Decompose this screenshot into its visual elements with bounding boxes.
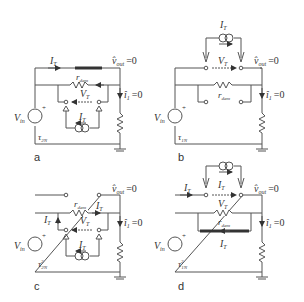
svg-text:rdam: rdam [74, 199, 87, 210]
svg-text:î1=0: î1=0 [124, 89, 142, 101]
svg-text:τ2N2: τ2N2 [38, 259, 48, 270]
svg-text:VT: VT [218, 55, 228, 67]
svg-text:IT: IT [95, 200, 103, 212]
panel-a: IT v̂out=0 rdam VT î1=0 IT Vin + τ2N a [14, 55, 142, 163]
svg-text:+: + [42, 104, 46, 112]
panel-label-c: c [34, 280, 40, 292]
svg-text:VT: VT [80, 88, 90, 100]
panel-c: v̂out=0 rdam IT IT VT î1=0 IT Vin + τ2N2… [14, 183, 142, 292]
svg-text:IT: IT [183, 182, 191, 194]
svg-text:rdam: rdam [76, 72, 89, 83]
svg-text:v̂out=0: v̂out=0 [254, 183, 279, 195]
panel-label-a: a [34, 151, 41, 163]
svg-text:Vin: Vin [154, 240, 165, 252]
svg-text:Vin: Vin [14, 240, 25, 252]
svg-text:v̂out=0: v̂out=0 [112, 183, 137, 195]
panel-label-b: b [178, 151, 184, 163]
svg-text:IT: IT [219, 238, 227, 250]
panel-d: IT IT v̂out=0 VT rdam î1=0 IT Vin + τ1N2… [154, 162, 284, 292]
svg-text:τ1N: τ1N [178, 132, 188, 143]
svg-text:+: + [182, 232, 186, 240]
svg-text:IT: IT [217, 179, 225, 191]
probe-arrow-a-left [63, 106, 69, 118]
svg-text:IT: IT [78, 111, 86, 123]
circuit-figure: IT v̂out=0 rdam VT î1=0 IT Vin + τ2N a [0, 0, 304, 302]
panel-b: IT VT v̂out=0 rdam î1=0 Vin + τ1N b [154, 19, 284, 163]
svg-text:IT: IT [219, 19, 227, 31]
svg-text:IT: IT [43, 214, 51, 226]
svg-text:rdam: rdam [218, 90, 231, 101]
label-it-a: IT [49, 55, 57, 67]
svg-text:î1=0: î1=0 [124, 217, 142, 229]
svg-text:IT: IT [78, 239, 86, 251]
svg-text:VT: VT [218, 198, 228, 210]
svg-text:+: + [42, 232, 46, 240]
svg-text:v̂out=0: v̂out=0 [254, 55, 279, 67]
svg-text:rdam: rdam [218, 217, 231, 228]
svg-text:VT: VT [80, 215, 90, 227]
panel-label-d: d [178, 280, 184, 292]
svg-text:τ2N: τ2N [38, 132, 48, 143]
svg-text:Vin: Vin [154, 112, 165, 124]
svg-text:+: + [182, 104, 186, 112]
svg-text:Vin: Vin [14, 112, 25, 124]
svg-text:τ1N2: τ1N2 [178, 259, 188, 270]
svg-text:î1=0: î1=0 [266, 89, 284, 101]
svg-text:v̂out=0: v̂out=0 [112, 55, 137, 67]
svg-text:î1=0: î1=0 [266, 217, 284, 229]
